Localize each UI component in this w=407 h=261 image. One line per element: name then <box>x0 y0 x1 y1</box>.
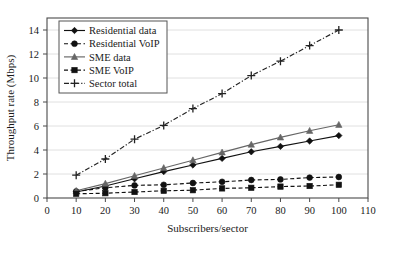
chart-page: 024681012140102030405060708090100110Subs… <box>0 0 407 261</box>
x-tick-label: 30 <box>129 205 140 216</box>
x-tick-label: 20 <box>100 205 111 216</box>
marker-plus <box>276 57 284 65</box>
legend: Residential dataResidential VoIPSME data… <box>59 21 167 93</box>
marker-plus <box>160 121 168 129</box>
x-tick-label: 0 <box>44 205 49 216</box>
x-tick-label: 100 <box>331 205 347 216</box>
y-tick-label: 10 <box>29 73 40 84</box>
marker-circle <box>190 180 196 186</box>
y-tick-label: 4 <box>34 145 40 156</box>
x-tick-label: 70 <box>246 205 257 216</box>
marker-diamond <box>248 149 254 155</box>
y-tick-label: 8 <box>34 97 39 108</box>
legend-label: SME data <box>89 52 131 63</box>
legend-label: Residential VoIP <box>89 38 160 49</box>
marker-triangle <box>336 121 342 127</box>
marker-square <box>190 188 195 193</box>
marker-square <box>336 182 341 187</box>
marker-square <box>161 188 166 193</box>
x-tick-label: 60 <box>217 205 228 216</box>
marker-square <box>307 183 312 188</box>
marker-circle <box>161 182 167 188</box>
marker-plus <box>131 135 139 143</box>
marker-circle <box>307 175 313 181</box>
x-tick-label: 90 <box>304 205 315 216</box>
marker-plus <box>72 171 80 179</box>
marker-diamond <box>336 132 342 138</box>
marker-plus <box>218 90 226 98</box>
marker-square <box>72 67 77 72</box>
marker-circle <box>336 174 342 180</box>
throughput-line-chart: 024681012140102030405060708090100110Subs… <box>0 0 407 261</box>
marker-circle <box>248 177 254 183</box>
series-residential-data <box>73 132 342 195</box>
y-tick-label: 14 <box>29 25 40 36</box>
y-tick-label: 12 <box>29 49 40 60</box>
marker-square <box>103 191 108 196</box>
marker-diamond <box>219 155 225 161</box>
marker-circle <box>132 183 138 189</box>
marker-square <box>73 191 78 196</box>
y-axis-title: Throughput rate (Mbps) <box>4 55 17 162</box>
y-tick-label: 6 <box>34 121 39 132</box>
marker-diamond <box>306 138 312 144</box>
legend-label: SME VoIP <box>89 65 134 76</box>
marker-plus <box>335 26 343 34</box>
marker-square <box>132 189 137 194</box>
series-line <box>76 185 339 194</box>
x-tick-label: 10 <box>71 205 82 216</box>
y-tick-label: 2 <box>34 169 39 180</box>
legend-label: Residential data <box>89 25 157 36</box>
marker-square <box>278 184 283 189</box>
x-tick-label: 40 <box>158 205 169 216</box>
x-tick-label: 110 <box>360 205 375 216</box>
marker-plus <box>189 105 197 113</box>
marker-plus <box>101 155 109 163</box>
x-tick-label: 50 <box>188 205 199 216</box>
legend-label: Sector total <box>89 78 137 89</box>
marker-square <box>219 186 224 191</box>
marker-plus <box>306 42 314 50</box>
marker-circle <box>219 179 225 185</box>
marker-circle <box>278 177 284 183</box>
marker-circle <box>72 41 78 47</box>
x-axis-title: Subscribers/sector <box>167 222 248 234</box>
marker-square <box>249 185 254 190</box>
y-tick-label: 0 <box>34 193 39 204</box>
series-line <box>76 136 339 192</box>
marker-diamond <box>277 143 283 149</box>
x-tick-label: 80 <box>275 205 286 216</box>
series-line <box>76 125 339 191</box>
